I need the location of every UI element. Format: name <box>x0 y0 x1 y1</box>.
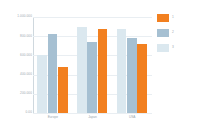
bar <box>98 29 108 113</box>
bar <box>87 42 97 113</box>
x-axis-tick-label: Europe <box>33 116 73 119</box>
chart-legend: 123 <box>157 14 197 59</box>
legend-label: 2 <box>172 31 174 34</box>
gridline <box>33 113 152 114</box>
legend-swatch <box>157 14 169 22</box>
bar <box>48 34 58 113</box>
bar <box>77 27 87 113</box>
y-axis-tick-label: 0.00 <box>2 111 32 114</box>
legend-label: 1 <box>172 16 174 19</box>
bar-group <box>117 17 148 113</box>
plot-area <box>33 17 152 113</box>
bar-group <box>77 17 108 113</box>
y-axis-tick-label: 200.000 <box>2 92 32 95</box>
legend-item[interactable]: 3 <box>157 44 197 55</box>
bar <box>58 67 68 113</box>
legend-swatch <box>157 44 169 52</box>
x-axis-tick-label: Japan <box>73 116 113 119</box>
legend-label: 3 <box>172 46 174 49</box>
y-axis-tick-label: 1.000.000 <box>2 15 32 18</box>
legend-item[interactable]: 1 <box>157 14 197 25</box>
y-axis-tick-label: 400.000 <box>2 73 32 76</box>
bar <box>137 44 147 113</box>
legend-item[interactable]: 2 <box>157 29 197 40</box>
y-axis-tick-label: 800.000 <box>2 35 32 38</box>
bar-chart: 0.00200.000400.000600.000800.0001.000.00… <box>0 0 197 133</box>
bar <box>127 38 137 113</box>
legend-swatch <box>157 29 169 37</box>
bar-group <box>37 17 68 113</box>
x-axis-tick-label: USA <box>112 116 152 119</box>
y-axis-tick-labels: 0.00200.000400.000600.000800.0001.000.00… <box>0 0 32 133</box>
bar <box>117 29 127 113</box>
bar <box>37 55 47 113</box>
y-axis-tick-label: 600.000 <box>2 54 32 57</box>
